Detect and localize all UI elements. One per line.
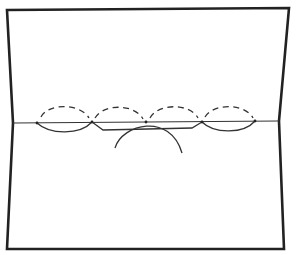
dashed-arc-2 [95, 107, 143, 119]
card-diagram [0, 0, 297, 255]
node-3 [145, 121, 148, 124]
solid-arc-left [37, 122, 92, 132]
node-4 [201, 121, 204, 124]
dashed-arc-1 [41, 107, 89, 118]
solid-arc-right [202, 121, 255, 131]
dashed-arc-3 [150, 107, 198, 118]
node-2 [91, 121, 94, 124]
node-1 [36, 122, 39, 125]
dashed-arc-4 [205, 107, 253, 118]
node-5 [254, 120, 257, 123]
